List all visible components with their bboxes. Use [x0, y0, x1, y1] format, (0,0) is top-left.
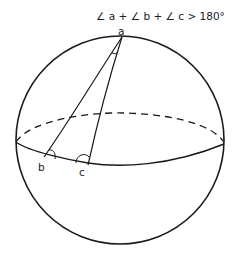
arc-a-b — [44, 37, 122, 157]
equator-back-dashed — [16, 113, 224, 142]
equator-front — [16, 142, 224, 165]
sphere-outline — [16, 36, 224, 244]
spherical-triangle-diagram: ∠ a + ∠ b + ∠ c > 180° a b c — [0, 0, 241, 260]
vertex-label-a: a — [118, 25, 124, 37]
angle-sum-formula: ∠ a + ∠ b + ∠ c > 180° — [96, 10, 225, 22]
vertex-label-b: b — [38, 161, 45, 173]
vertex-label-c: c — [79, 166, 85, 178]
arc-a-c — [88, 37, 122, 165]
